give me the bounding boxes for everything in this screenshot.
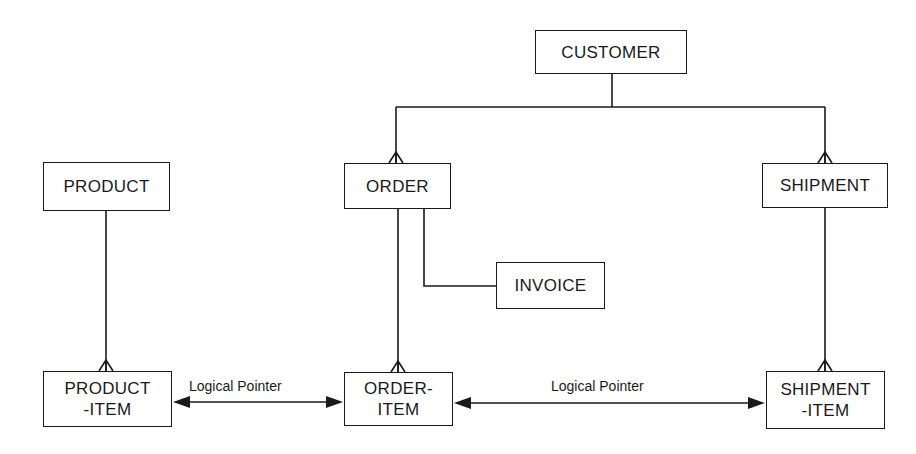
entity-label-line-2: -ITEM — [84, 399, 132, 420]
entity-label: ORDER — [366, 176, 429, 197]
crows-foot-icon — [818, 360, 832, 371]
crows-foot-icon — [818, 152, 832, 163]
entity-product: PRODUCT — [43, 162, 170, 211]
entity-customer: CUSTOMER — [535, 30, 687, 74]
entity-label: INVOICE — [514, 275, 586, 296]
entity-label: PRODUCT — [63, 176, 149, 197]
crows-foot-icon — [99, 360, 113, 371]
crows-foot-icon — [391, 361, 405, 372]
logical-pointer-left-label: Logical Pointer — [189, 378, 282, 394]
entity-label-line-2: -ITEM — [802, 400, 850, 421]
entity-order-item: ORDER- ITEM — [344, 372, 453, 426]
logical-pointer-right-label: Logical Pointer — [551, 378, 644, 394]
entity-label-line-2: ITEM — [378, 399, 420, 420]
crows-foot-icon — [389, 152, 403, 163]
arrowhead-right-icon — [326, 396, 343, 408]
entity-label-line-1: PRODUCT — [64, 378, 150, 399]
entity-shipment: SHIPMENT — [762, 163, 888, 208]
entity-order: ORDER — [344, 163, 451, 209]
entity-label: CUSTOMER — [561, 42, 660, 63]
arrowhead-left-icon — [454, 397, 471, 409]
entity-invoice: INVOICE — [496, 262, 605, 309]
order-invoice-line — [424, 209, 496, 286]
entity-label-line-1: SHIPMENT — [780, 379, 870, 400]
entity-shipment-item: SHIPMENT -ITEM — [766, 371, 885, 429]
entity-label: SHIPMENT — [780, 175, 870, 196]
entity-product-item: PRODUCT -ITEM — [43, 371, 172, 427]
entity-label-line-1: ORDER- — [364, 378, 433, 399]
arrowhead-left-icon — [173, 396, 190, 408]
arrowhead-right-icon — [748, 397, 765, 409]
